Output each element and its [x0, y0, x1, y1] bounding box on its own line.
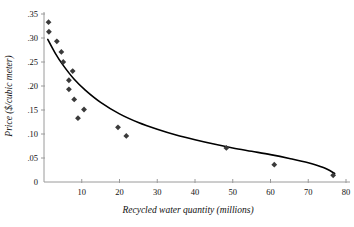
data-point: [271, 162, 277, 168]
x-tick-label: 10: [78, 187, 87, 197]
data-point: [46, 19, 52, 25]
y-tick-label: 0: [34, 177, 38, 187]
data-point: [70, 68, 76, 74]
data-point: [58, 49, 64, 55]
x-axis-title: Recycled water quantity (millions): [121, 205, 253, 216]
data-point: [46, 29, 52, 35]
data-point: [66, 77, 72, 83]
data-point: [71, 97, 77, 103]
data-point: [60, 59, 66, 65]
fit-curve: [48, 39, 335, 173]
y-tick-label: .05: [27, 153, 38, 163]
data-point: [66, 86, 72, 92]
x-tick-label: 30: [153, 187, 162, 197]
tick-marks: [41, 14, 346, 183]
y-tick-label: .35: [27, 9, 38, 19]
y-tick-label: .25: [27, 57, 38, 67]
x-tick-label: 20: [115, 187, 124, 197]
y-tick-labels: 0.05.10.15.20.25.30.35: [27, 9, 38, 187]
data-points: [46, 19, 336, 178]
x-tick-label: 70: [304, 187, 313, 197]
y-tick-label: .10: [27, 129, 38, 139]
y-tick-label: .20: [27, 81, 38, 91]
chart-figure: 0.05.10.15.20.25.30.35 1020304050607080 …: [0, 0, 354, 227]
data-point: [54, 38, 60, 44]
x-tick-label: 40: [191, 187, 200, 197]
scatter-plot: 0.05.10.15.20.25.30.35 1020304050607080 …: [0, 0, 354, 227]
data-point: [115, 124, 121, 130]
x-tick-labels: 1020304050607080: [78, 187, 351, 197]
x-tick-label: 80: [342, 187, 351, 197]
y-tick-label: .30: [27, 33, 38, 43]
y-axis-title: Price ($/cubic meter): [4, 55, 15, 137]
axes: [44, 12, 350, 182]
data-point: [123, 133, 129, 139]
x-tick-label: 50: [229, 187, 238, 197]
y-tick-label: .15: [27, 105, 38, 115]
x-tick-label: 60: [266, 187, 275, 197]
data-point: [81, 107, 87, 113]
data-point: [75, 115, 81, 121]
